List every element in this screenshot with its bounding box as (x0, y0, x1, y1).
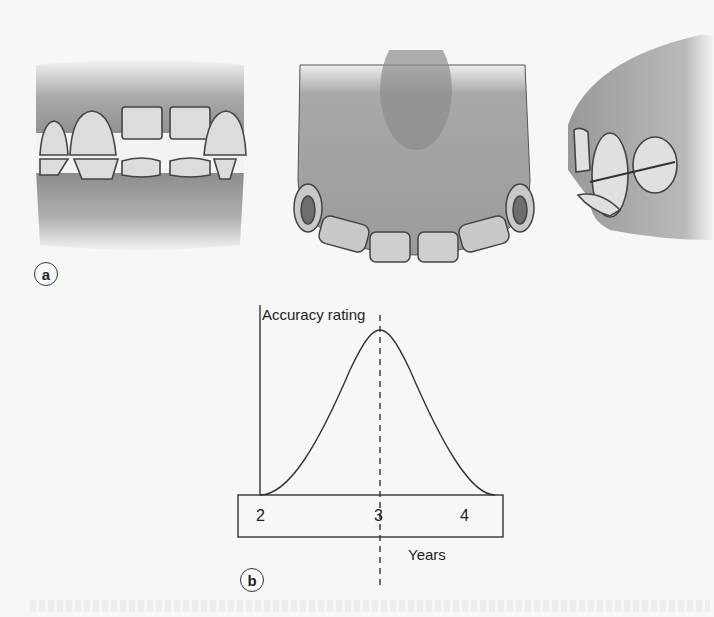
x-tick-2: 2 (256, 507, 265, 525)
frontal-teeth-illustration (30, 55, 250, 255)
lateral-teeth-illustration (560, 30, 714, 260)
occlusal-arch-illustration (290, 50, 540, 270)
panel-a-lateral-view (560, 30, 714, 260)
panel-a-label: a (34, 262, 58, 286)
panel-b-label: b (240, 568, 264, 592)
x-axis-label: Years (408, 546, 446, 563)
x-tick-4: 4 (460, 507, 469, 525)
panel-a-frontal-view (30, 55, 250, 255)
x-tick-3: 3 (374, 507, 383, 525)
accuracy-curve-plot (230, 300, 530, 600)
accuracy-chart (230, 300, 530, 600)
panel-a-occlusal-view (290, 50, 540, 270)
accuracy-curve (260, 330, 495, 495)
y-axis-label: Accuracy rating (262, 306, 365, 323)
page-bleed-through (30, 600, 710, 612)
